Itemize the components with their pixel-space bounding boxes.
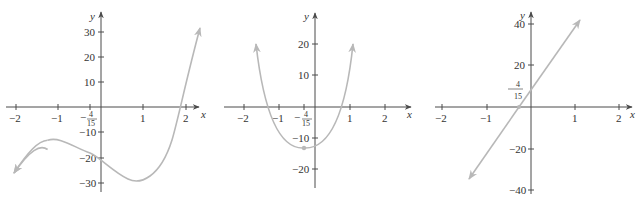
cubic-curve xyxy=(48,28,200,181)
svg-text:−1: −1 xyxy=(480,112,492,124)
svg-text:1: 1 xyxy=(347,112,353,124)
fraction-label: − 4 15 xyxy=(294,110,312,128)
x-axis-label: x xyxy=(406,108,412,120)
svg-text:1: 1 xyxy=(572,112,578,124)
svg-text:10: 10 xyxy=(298,69,310,81)
svg-text:−10: −10 xyxy=(292,132,310,144)
svg-text:−: − xyxy=(80,111,86,123)
svg-text:−20: −20 xyxy=(79,152,97,164)
svg-text:4: 4 xyxy=(516,80,520,89)
svg-text:−: − xyxy=(294,111,300,123)
x-tick-label: 1 xyxy=(140,112,146,124)
svg-text:20: 20 xyxy=(84,51,96,63)
svg-text:−30: −30 xyxy=(79,177,97,189)
vertex-point xyxy=(302,146,306,150)
parabola-right-branch xyxy=(304,44,353,148)
fraction-label: 4 15 xyxy=(508,80,523,101)
svg-text:20: 20 xyxy=(514,59,526,71)
y-axis-label: y xyxy=(303,10,309,22)
svg-text:30: 30 xyxy=(84,26,96,38)
svg-text:10: 10 xyxy=(84,76,96,88)
svg-text:−2: −2 xyxy=(237,112,249,124)
y-axis-label: y xyxy=(89,10,95,22)
x-tick-label: 2 xyxy=(183,112,189,124)
cubic-curve-left xyxy=(14,140,48,173)
svg-text:−20: −20 xyxy=(292,163,310,175)
x-axis-label: x xyxy=(200,108,206,120)
svg-text:20: 20 xyxy=(298,38,310,50)
x-tick-label: −1 xyxy=(51,112,63,124)
svg-text:15: 15 xyxy=(302,119,310,128)
x-tick-label: −2 xyxy=(9,112,21,124)
graph-parabola: x y −2 −1 1 2 − 4 15 20 10 xyxy=(224,10,412,188)
line-upper xyxy=(519,20,580,107)
root-point xyxy=(517,105,521,109)
svg-text:−2: −2 xyxy=(435,112,447,124)
graph-line: x y −2 −1 1 2 4 15 40 20 −20 −40 xyxy=(435,9,635,196)
svg-text:−20: −20 xyxy=(509,143,527,155)
svg-text:−40: −40 xyxy=(509,184,527,196)
x-ticks: −2 −1 1 2 − 4 15 xyxy=(9,104,189,128)
svg-text:−10: −10 xyxy=(79,126,97,138)
svg-text:4: 4 xyxy=(304,110,308,119)
graphs-figure: x y −2 −1 1 2 − 4 15 30 xyxy=(0,0,636,202)
x-axis-label: x xyxy=(629,108,635,120)
svg-text:40: 40 xyxy=(514,18,526,30)
svg-text:4: 4 xyxy=(89,110,93,119)
svg-text:2: 2 xyxy=(382,112,388,124)
x-ticks: −2 −1 1 2 − 4 15 xyxy=(237,104,388,128)
svg-text:2: 2 xyxy=(616,112,622,124)
svg-text:15: 15 xyxy=(514,92,522,101)
graph-cubic: x y −2 −1 1 2 − 4 15 30 xyxy=(6,10,206,192)
